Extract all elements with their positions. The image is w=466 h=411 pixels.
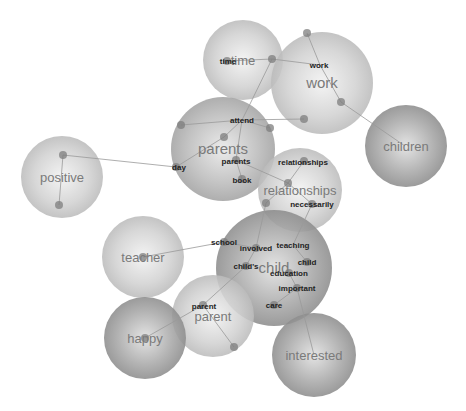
- node-dot: [230, 343, 238, 351]
- word-label-education: education: [270, 269, 308, 278]
- cluster-label-parent: parent: [195, 309, 232, 324]
- cluster-label-teacher: teacher: [121, 250, 165, 265]
- node-dot: [268, 55, 276, 63]
- word-label-relationships: relationships: [278, 158, 328, 167]
- node-dot: [303, 29, 311, 37]
- word-label-time: time: [220, 57, 237, 66]
- node-dot: [177, 121, 185, 129]
- node-dot: [55, 201, 63, 209]
- word-label-school: school: [211, 238, 237, 247]
- cluster-label-work: work: [305, 74, 338, 91]
- node-dot: [266, 124, 274, 132]
- cluster-label-positive: positive: [40, 170, 84, 185]
- cluster-label-relationships: relationships: [264, 183, 337, 198]
- word-label-care: care: [266, 301, 283, 310]
- word-label-parents: parents: [222, 157, 251, 166]
- node-dot: [337, 98, 345, 106]
- cluster-label-children: children: [383, 139, 429, 154]
- word-label-work: work: [309, 61, 329, 70]
- word-label-childs: child's: [233, 262, 259, 271]
- word-label-child: child: [298, 258, 317, 267]
- word-cluster-diagram: timeworkchildrenparentspositiverelations…: [0, 0, 466, 411]
- clusters-layer: [21, 20, 447, 397]
- node-dot: [262, 199, 270, 207]
- cluster-label-happy: happy: [127, 331, 163, 346]
- word-label-parent: parent: [192, 302, 217, 311]
- word-label-important: important: [279, 284, 316, 293]
- word-label-necessarily: necessarily: [290, 200, 334, 209]
- node-dot: [300, 115, 308, 123]
- cluster-label-parents: parents: [198, 140, 248, 157]
- word-label-book: book: [232, 176, 252, 185]
- word-label-involved: involved: [240, 244, 273, 253]
- cluster-label-interested: interested: [285, 348, 342, 363]
- word-label-attend: attend: [230, 116, 254, 125]
- word-label-teaching: teaching: [277, 241, 310, 250]
- word-label-day: day: [172, 163, 186, 172]
- node-dot: [59, 151, 67, 159]
